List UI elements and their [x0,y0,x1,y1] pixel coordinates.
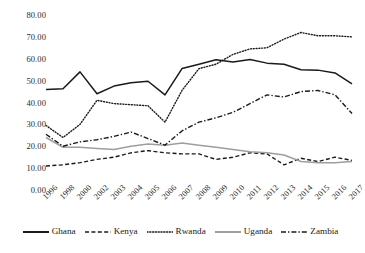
series-line-ghana [46,59,352,94]
legend-item-zambia[interactable]: Zambia [281,226,338,236]
series-line-kenya [46,151,352,166]
chart-legend: GhanaKenyaRwandaUgandaZambia [0,226,361,236]
legend-label: Ghana [52,226,76,236]
legend-item-uganda[interactable]: Uganda [215,226,273,236]
legend-item-rwanda[interactable]: Rwanda [147,226,206,236]
legend-swatch-uganda-icon [215,227,241,236]
legend-label: Rwanda [176,226,206,236]
legend-item-ghana[interactable]: Ghana [23,226,76,236]
legend-item-kenya[interactable]: Kenya [85,226,138,236]
legend-swatch-ghana-icon [23,227,49,236]
legend-label: Zambia [310,226,338,236]
series-line-uganda [46,138,352,163]
series-line-zambia [46,90,352,146]
legend-swatch-zambia-icon [281,227,307,236]
legend-label: Kenya [114,226,138,236]
legend-label: Uganda [244,226,273,236]
legend-swatch-kenya-icon [85,227,111,236]
legend-swatch-rwanda-icon [147,227,173,236]
